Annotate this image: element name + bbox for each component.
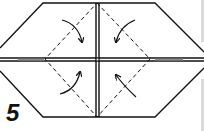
edge-bar-bottom (201, 79, 204, 131)
outline-top (0, 3, 204, 52)
arrow-top-right-icon (116, 20, 135, 42)
origami-diagram (0, 0, 204, 131)
arrow-bottom-left-icon (60, 72, 80, 94)
crease-gap-left (18, 59, 44, 61)
arrow-top-left-icon (62, 20, 82, 42)
edge-bar-top (201, 0, 204, 42)
crease-gap-right (155, 59, 183, 61)
center-gap (97, 59, 99, 61)
outline-bottom (0, 68, 204, 117)
step-number: 5 (6, 101, 19, 125)
